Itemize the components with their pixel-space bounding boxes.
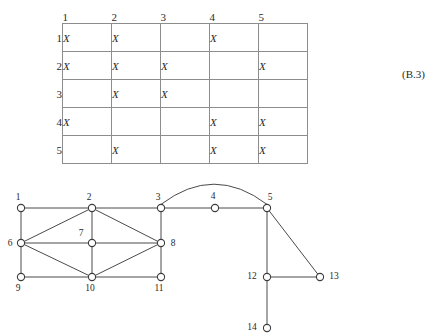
graph-node-label-5: 5 (268, 192, 273, 202)
matrix-cell-r3c3: X (161, 80, 210, 108)
matrix-cell-r5c3 (161, 136, 210, 164)
adjacency-matrix-block: 1 2 3 4 5 1 X X X 2 X X X X (48, 6, 308, 164)
matrix-cell-r4c5: X (259, 108, 308, 136)
matrix-col-header-1: 1 (63, 6, 112, 24)
graph-node-2[interactable] (88, 204, 95, 211)
graph-node-label-10: 10 (85, 283, 95, 293)
graph-node-label-12: 12 (247, 271, 257, 281)
graph-node-label-7: 7 (79, 228, 84, 238)
matrix-cell-r3c2: X (112, 80, 161, 108)
graph-node-13[interactable] (316, 273, 323, 280)
graph-node-10[interactable] (88, 273, 95, 280)
graph-node-label-13: 13 (329, 271, 339, 281)
graph-node-12[interactable] (263, 273, 270, 280)
equation-tag: (B.3) (402, 68, 425, 80)
table-row: 3 X X (48, 80, 308, 108)
matrix-cell-r2c3: X (161, 52, 210, 80)
matrix-cell-r5c5: X (259, 136, 308, 164)
graph-node-1[interactable] (17, 204, 24, 211)
matrix-cell-r4c3 (161, 108, 210, 136)
matrix-column-header-row: 1 2 3 4 5 (48, 6, 308, 24)
graph-label-layer: 1234567891011121314 (8, 191, 339, 332)
matrix-header-row-group: 1 2 3 4 5 (48, 6, 308, 24)
graph-node-7[interactable] (88, 239, 95, 246)
matrix-col-header-3: 3 (161, 6, 210, 24)
matrix-corner-cell (48, 6, 63, 24)
graph-node-3[interactable] (157, 204, 164, 211)
table-row: 2 X X X X (48, 52, 308, 80)
graph-node-label-3: 3 (156, 192, 161, 202)
matrix-row-header-2: 2 (48, 52, 63, 80)
graph-node-label-9: 9 (16, 283, 21, 293)
graph-figure: 1234567891011121314 (0, 178, 448, 333)
matrix-cell-r5c1 (63, 136, 112, 164)
matrix-col-header-4: 4 (210, 6, 259, 24)
graph-edge-5-13 (269, 211, 318, 274)
matrix-col-header-2: 2 (112, 6, 161, 24)
graph-node-label-4: 4 (211, 191, 216, 201)
graph-edge-2-8 (95, 210, 158, 242)
graph-svg-canvas: 1234567891011121314 (0, 178, 448, 333)
graph-node-6[interactable] (17, 239, 24, 246)
matrix-row-header-5: 5 (48, 136, 63, 164)
matrix-cell-r5c4: X (210, 136, 259, 164)
matrix-cell-r2c2: X (112, 52, 161, 80)
matrix-cell-r1c2: X (112, 24, 161, 52)
matrix-cell-r4c4: X (210, 108, 259, 136)
matrix-row-header-1: 1 (48, 24, 63, 52)
table-row: 4 X X X (48, 108, 308, 136)
matrix-cell-r5c2: X (112, 136, 161, 164)
graph-node-5[interactable] (263, 204, 270, 211)
graph-node-layer (17, 204, 323, 331)
graph-edge-layer (21, 184, 318, 324)
graph-node-label-8: 8 (171, 238, 176, 248)
matrix-col-header-5: 5 (259, 6, 308, 24)
graph-node-label-1: 1 (16, 192, 21, 202)
graph-node-14[interactable] (263, 324, 270, 331)
graph-node-8[interactable] (157, 239, 164, 246)
graph-node-label-14: 14 (247, 322, 257, 332)
table-row: 5 X X X (48, 136, 308, 164)
matrix-body: 1 X X X 2 X X X X 3 X X (48, 24, 308, 164)
table-row: 1 X X X (48, 24, 308, 52)
matrix-row-header-3: 3 (48, 80, 63, 108)
matrix-cell-r2c1: X (63, 52, 112, 80)
matrix-cell-r1c3 (161, 24, 210, 52)
graph-node-9[interactable] (17, 273, 24, 280)
matrix-cell-r4c1: X (63, 108, 112, 136)
graph-node-label-2: 2 (87, 192, 92, 202)
matrix-cell-r2c4 (210, 52, 259, 80)
matrix-cell-r4c2 (112, 108, 161, 136)
graph-node-11[interactable] (157, 273, 164, 280)
graph-node-4[interactable] (211, 204, 218, 211)
graph-node-label-6: 6 (8, 238, 13, 248)
matrix-cell-r2c5: X (259, 52, 308, 80)
graph-edge-10-8 (95, 245, 158, 276)
graph-node-label-11: 11 (154, 283, 163, 293)
matrix-cell-r1c1: X (63, 24, 112, 52)
graph-edge-6-10 (24, 245, 89, 276)
matrix-cell-r1c4: X (210, 24, 259, 52)
matrix-cell-r3c1 (63, 80, 112, 108)
matrix-cell-r3c4 (210, 80, 259, 108)
matrix-row-header-4: 4 (48, 108, 63, 136)
adjacency-matrix-table: 1 2 3 4 5 1 X X X 2 X X X X (48, 6, 308, 164)
matrix-cell-r1c5 (259, 24, 308, 52)
matrix-cell-r3c5 (259, 80, 308, 108)
